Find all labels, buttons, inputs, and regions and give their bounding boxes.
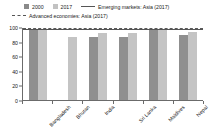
legend-item-2000: 2000	[24, 4, 44, 10]
bar-2017	[128, 33, 137, 100]
legend-swatch-2000-icon	[24, 4, 29, 9]
plot-area	[22, 28, 203, 101]
y-axis-tick-label: 100	[9, 25, 18, 31]
x-axis-label: India	[104, 104, 116, 116]
bar-2000	[119, 37, 128, 100]
bar-2017	[68, 37, 77, 100]
legend-dashed-line-icon	[12, 15, 26, 16]
legend-item-2017: 2017	[53, 4, 73, 10]
bar-2017	[98, 33, 107, 100]
plot-inner	[23, 28, 203, 100]
legend-label-advanced-economies: Advanced economies: Asia (2017)	[29, 13, 108, 19]
legend-label-2000: 2000	[32, 4, 44, 10]
legend-item-advanced-economies: Advanced economies: Asia (2017)	[12, 13, 108, 19]
bar-group	[143, 28, 173, 100]
x-axis-label: Maldives	[167, 104, 186, 123]
legend-row-primary: 2000 2017 Emerging markets: Asia (2017)	[0, 2, 209, 11]
x-axis-label: Bhutan	[75, 104, 91, 120]
bar-2000	[89, 37, 98, 100]
bar-group	[173, 28, 203, 100]
legend-row-secondary: Advanced economies: Asia (2017)	[0, 11, 209, 20]
legend-solid-line-icon	[81, 6, 95, 7]
bar-group	[113, 28, 143, 100]
y-axis-tick-label: 60	[12, 54, 18, 60]
bar-groups	[23, 28, 203, 100]
bar-2000	[149, 29, 158, 100]
y-axis-tick-label: 20	[12, 83, 18, 89]
legend-label-2017: 2017	[61, 4, 73, 10]
reference-line-advanced-economies	[23, 28, 203, 29]
y-axis-tick-label: 80	[12, 40, 18, 46]
x-axis-label: Bangladesh	[48, 104, 72, 128]
bar-group	[83, 28, 113, 100]
x-axis-label: Nepal	[195, 104, 209, 118]
bar-2017	[38, 29, 47, 100]
legend-item-emerging-markets: Emerging markets: Asia (2017)	[81, 4, 169, 10]
legend-swatch-2017-icon	[53, 4, 58, 9]
y-axis: 020406080100	[0, 28, 22, 102]
bar-group	[53, 28, 83, 100]
x-axis-label: Sri Lanka	[137, 104, 157, 124]
bar-2017	[188, 32, 197, 100]
y-axis-tick-label: 0	[15, 98, 18, 104]
reference-line-emerging-markets	[23, 29, 203, 30]
legend-label-emerging-markets: Emerging markets: Asia (2017)	[98, 4, 169, 10]
chart-figure: 2000 2017 Emerging markets: Asia (2017) …	[0, 0, 209, 139]
y-axis-tick-label: 40	[12, 69, 18, 75]
bar-group	[23, 28, 53, 100]
bar-2017	[158, 29, 167, 100]
chart-legend: 2000 2017 Emerging markets: Asia (2017) …	[0, 2, 209, 22]
bar-2000	[29, 30, 38, 100]
x-axis-labels: BangladeshBhutanIndiaSri LankaMaldivesNe…	[22, 104, 203, 139]
bar-2000	[179, 35, 188, 100]
